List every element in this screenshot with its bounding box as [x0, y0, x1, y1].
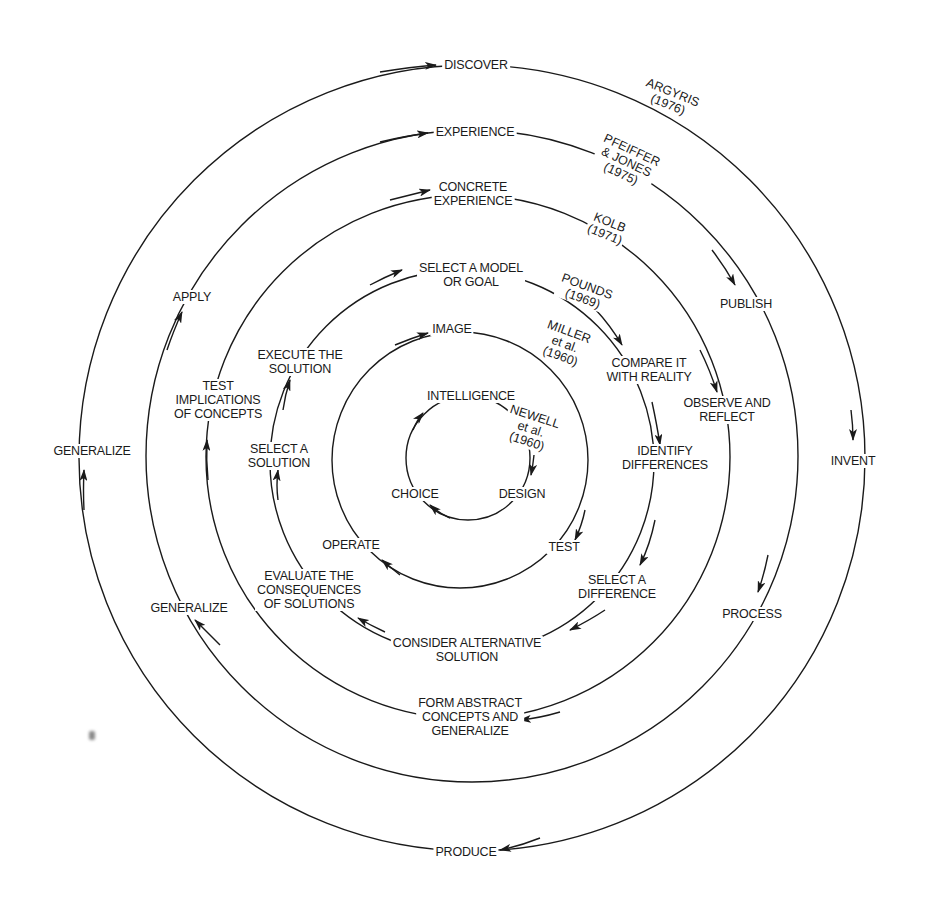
- stage-apply: APPLY: [171, 290, 213, 304]
- arrow-icon: [758, 555, 768, 592]
- stage-test: TEST: [546, 540, 581, 554]
- stage-select-model: SELECT A MODEL OR GOAL: [417, 261, 525, 289]
- stage-produce: PRODUCE: [433, 845, 498, 859]
- stage-execute-solution: EXECUTE THE SOLUTION: [255, 348, 344, 376]
- arrow-icon: [84, 470, 85, 510]
- stage-intelligence: INTELLIGENCE: [425, 389, 517, 403]
- arrow-icon: [430, 505, 450, 518]
- arrow-icon: [167, 312, 182, 350]
- arrow-icon: [700, 350, 717, 392]
- stage-concrete-experience: CONCRETE EXPERIENCE: [432, 180, 515, 208]
- arrow-icon: [712, 250, 735, 285]
- stage-invent: INVENT: [829, 454, 878, 468]
- arrow-icon: [277, 470, 278, 500]
- arrow-icon: [531, 455, 534, 475]
- stage-form-abstract: FORM ABSTRACT CONCEPTS AND GENERALIZE: [416, 696, 524, 738]
- stage-choice: CHOICE: [389, 487, 440, 501]
- arrow-icon: [851, 410, 853, 440]
- scan-artifact: [89, 731, 95, 740]
- stage-identify-differences: IDENTIFY DIFFERENCES: [620, 444, 710, 472]
- arrow-icon: [395, 333, 428, 345]
- stage-compare-reality: COMPARE IT WITH REALITY: [604, 356, 693, 384]
- arrow-icon: [570, 610, 605, 630]
- arrow-icon: [382, 560, 400, 575]
- stage-select-difference: SELECT A DIFFERENCE: [576, 573, 658, 601]
- arrow-icon: [358, 618, 385, 632]
- stage-publish: PUBLISH: [718, 297, 774, 311]
- arrow-icon: [370, 270, 402, 285]
- stage-operate: OPERATE: [320, 538, 381, 552]
- stage-process: PROCESS: [720, 607, 784, 621]
- stage-generalize-outer: GENERALIZE: [51, 444, 132, 458]
- stage-consider-alternative: CONSIDER ALTERNATIVE SOLUTION: [391, 636, 543, 664]
- arrow-icon: [195, 620, 220, 645]
- stage-test-implications: TEST IMPLICATIONS OF CONCEPTS: [172, 379, 264, 421]
- arrow-icon: [380, 133, 428, 142]
- stage-observe-reflect: OBSERVE AND REFLECT: [681, 396, 772, 424]
- stage-evaluate-consequences: EVALUATE THE CONSEQUENCES OF SOLUTIONS: [255, 569, 363, 611]
- stage-experience: EXPERIENCE: [434, 125, 517, 139]
- stage-design: DESIGN: [497, 487, 548, 501]
- stage-generalize-2: GENERALIZE: [148, 601, 229, 615]
- stage-discover: DISCOVER: [442, 58, 510, 72]
- arrow-icon: [207, 440, 208, 480]
- stage-select-solution: SELECT A SOLUTION: [246, 442, 312, 470]
- diagram-canvas: DISCOVER INVENT PRODUCE GENERALIZE ARGYR…: [0, 0, 929, 908]
- stage-image: IMAGE: [430, 322, 473, 336]
